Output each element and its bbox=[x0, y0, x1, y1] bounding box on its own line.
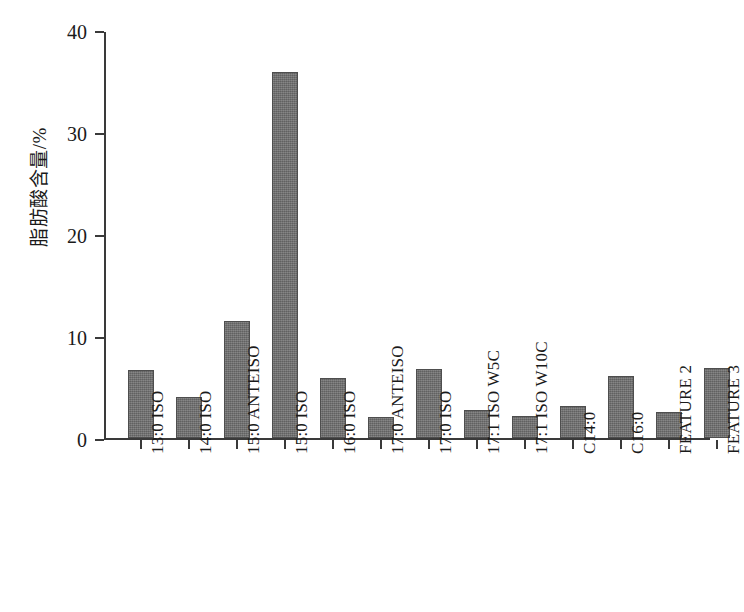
y-axis-line bbox=[104, 32, 106, 440]
x-axis-label: 17:0 ISO bbox=[436, 391, 456, 454]
x-axis-label: C14:0 bbox=[580, 411, 600, 454]
x-tick bbox=[716, 440, 717, 449]
x-axis-label: C16:0 bbox=[628, 411, 648, 454]
x-axis-label: 15:0 ISO bbox=[292, 391, 312, 454]
bar bbox=[272, 72, 298, 438]
y-tick: 40 bbox=[95, 31, 104, 32]
y-tick: 10 bbox=[95, 337, 104, 338]
x-axis-label: FEATURE 2 bbox=[676, 365, 696, 454]
y-axis-title: 脂肪酸含量/% bbox=[28, 117, 52, 257]
y-tick: 20 bbox=[95, 235, 104, 236]
x-axis-label: 17:1 ISO W5C bbox=[484, 350, 504, 454]
x-axis-label: 17:1 ISO W10C bbox=[532, 341, 552, 454]
y-tick-label: 20 bbox=[67, 225, 87, 248]
y-tick-label: 10 bbox=[67, 327, 87, 350]
y-tick-label: 40 bbox=[67, 21, 87, 44]
y-tick-label: 0 bbox=[77, 428, 87, 451]
x-axis-labels: 13:0 ISO14:0 ISO15:0 ANTEISO15:0 ISO16:0… bbox=[104, 440, 710, 612]
x-axis-label: 15:0 ANTEISO bbox=[244, 345, 264, 454]
x-axis-label: 17:0 ANTEISO bbox=[388, 345, 408, 454]
x-axis-label: 14:0 ISO bbox=[196, 391, 216, 454]
y-tick: 0 bbox=[95, 439, 104, 440]
x-axis-label: 16:0 ISO bbox=[340, 391, 360, 454]
x-axis-label: FEATURE 3 bbox=[724, 365, 744, 454]
y-tick: 30 bbox=[95, 133, 104, 134]
y-tick-label: 30 bbox=[67, 123, 87, 146]
x-axis-label: 13:0 ISO bbox=[148, 391, 168, 454]
